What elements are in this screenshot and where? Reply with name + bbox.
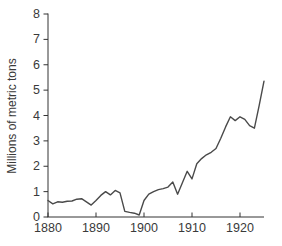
x-tick-label: 1920 [226, 221, 254, 235]
y-tick-label: 5 [33, 83, 40, 97]
line-chart-figure: Millions of metric tons 0123456781880189… [0, 0, 282, 246]
data-line [48, 81, 264, 215]
x-tick-label: 1880 [34, 221, 62, 235]
y-tick-label: 8 [33, 7, 40, 21]
y-axis-title: Millions of metric tons [5, 58, 19, 173]
y-tick-label: 7 [33, 32, 40, 46]
plot-area [48, 81, 264, 215]
chart: Millions of metric tons 0123456781880189… [0, 0, 282, 246]
y-tick-label: 3 [33, 134, 40, 148]
y-tick-label: 4 [33, 109, 40, 123]
y-tick-label: 2 [33, 159, 40, 173]
x-tick-label: 1900 [130, 221, 158, 235]
y-tick-label: 1 [33, 185, 40, 199]
x-tick-label: 1910 [178, 221, 206, 235]
y-tick-label: 6 [33, 58, 40, 72]
x-tick-label: 1890 [82, 221, 110, 235]
